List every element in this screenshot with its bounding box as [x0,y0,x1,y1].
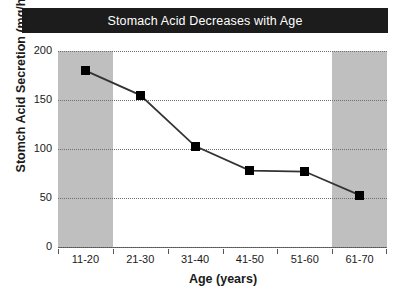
x-tick-label-31-40: 31-40 [168,253,222,265]
data-point-21-30 [136,91,145,100]
x-tick-mark-0 [58,249,59,254]
y-tick-label-150: 150 [18,93,52,105]
x-tick-mark-2 [168,249,169,254]
y-tick-label-0: 0 [18,240,52,252]
data-point-41-50 [245,166,254,175]
x-tick-label-41-50: 41-50 [223,253,277,265]
x-tick-mark-3 [223,249,224,254]
gridline-0 [58,247,387,248]
x-tick-label-21-30: 21-30 [113,253,167,265]
series-polyline [85,71,359,195]
data-point-11-20 [81,66,90,75]
series-layer [58,51,387,247]
x-axis-tick-labels: 11-2021-3031-4041-5051-6061-70 [58,249,387,269]
data-point-61-70 [355,191,364,200]
y-tick-label-200: 200 [18,44,52,56]
x-tick-mark-6 [386,249,387,254]
data-point-51-60 [300,167,309,176]
data-point-31-40 [191,142,200,151]
x-tick-mark-4 [277,249,278,254]
series-line [58,51,387,247]
y-tick-label-100: 100 [18,142,52,154]
x-tick-label-11-20: 11-20 [58,253,112,265]
x-tick-mark-1 [113,249,114,254]
chart-figure: Stomach Acid Decreases with Age Stomch A… [0,0,401,303]
x-tick-label-61-70: 61-70 [333,253,387,265]
x-tick-mark-5 [332,249,333,254]
plot-area [58,51,387,248]
y-tick-label-50: 50 [18,191,52,203]
x-tick-label-51-60: 51-60 [278,253,332,265]
